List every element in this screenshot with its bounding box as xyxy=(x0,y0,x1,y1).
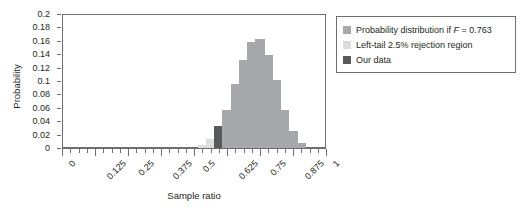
x-tick-minor xyxy=(153,149,154,153)
x-tick-major xyxy=(293,149,294,156)
x-tick-label: 0.5 xyxy=(202,159,217,174)
legend-item: Left-tail 2.5% rejection region xyxy=(343,37,510,52)
y-axis-title: Probability xyxy=(11,47,22,127)
x-tick-label: 0.375 xyxy=(172,159,194,181)
x-tick-major xyxy=(194,149,195,156)
x-tick-minor xyxy=(219,149,220,153)
x-axis-title: Sample ratio xyxy=(62,190,326,201)
x-tick-major xyxy=(260,149,261,156)
legend-item: Probability distribution if F = 0.763 xyxy=(343,22,510,37)
x-tick-minor xyxy=(103,149,104,153)
legend: Probability distribution if F = 0.763Lef… xyxy=(336,16,516,73)
x-tick-minor xyxy=(145,149,146,153)
y-tick-mark xyxy=(57,68,61,69)
y-tick-label: 0.2 xyxy=(37,10,50,19)
y-tick-label: 0.18 xyxy=(32,23,50,32)
x-tick-label: 0.75 xyxy=(269,159,288,178)
probability-histogram-figure: 00.020.040.060.080.10.120.140.160.180.2 … xyxy=(0,0,521,214)
x-tick-minor xyxy=(211,149,212,153)
x-tick-minor xyxy=(79,149,80,153)
y-tick-label: 0.12 xyxy=(32,63,50,72)
y-tick-mark xyxy=(57,41,61,42)
y-tick-label: 0.14 xyxy=(32,50,50,59)
x-tick-label: 0 xyxy=(67,159,77,169)
y-tick-label: 0.02 xyxy=(32,130,50,139)
x-tick-minor xyxy=(301,149,302,153)
y-tick-label: 0.16 xyxy=(32,36,50,45)
x-tick-minor xyxy=(244,149,245,153)
x-tick-minor xyxy=(136,149,137,153)
x-tick-minor xyxy=(178,149,179,153)
x-tick-minor xyxy=(202,149,203,153)
x-tick-minor xyxy=(186,149,187,153)
x-tick-minor xyxy=(268,149,269,153)
y-tick-mark xyxy=(57,27,61,28)
x-tick-minor xyxy=(318,149,319,153)
y-tick-mark xyxy=(57,81,61,82)
legend-swatch xyxy=(343,41,351,49)
x-tick-minor xyxy=(112,149,113,153)
x-tick-label: 0.25 xyxy=(137,159,156,178)
x-tick-minor xyxy=(310,149,311,153)
y-tick-mark xyxy=(57,108,61,109)
legend-swatch xyxy=(343,26,351,34)
legend-label: Left-tail 2.5% rejection region xyxy=(356,40,473,50)
x-tick-label: 1 xyxy=(331,159,341,169)
legend-label: Probability distribution if F = 0.763 xyxy=(356,25,492,35)
y-tick-label: 0.04 xyxy=(32,117,50,126)
legend-swatch xyxy=(343,56,351,64)
y-axis: 00.020.040.060.080.10.120.140.160.180.2 xyxy=(0,0,60,214)
y-tick-mark xyxy=(57,14,61,15)
x-tick-major xyxy=(161,149,162,156)
y-tick-label: 0 xyxy=(45,144,50,153)
x-tick-major xyxy=(128,149,129,156)
legend-label: Our data xyxy=(356,55,391,65)
x-tick-major xyxy=(95,149,96,156)
x-tick-label: 0.125 xyxy=(106,159,128,181)
x-tick-major xyxy=(227,149,228,156)
x-tick-minor xyxy=(277,149,278,153)
x-tick-label: 0.875 xyxy=(304,159,326,181)
x-tick-major xyxy=(326,149,327,156)
x-tick-minor xyxy=(252,149,253,153)
x-tick-minor xyxy=(70,149,71,153)
y-tick-mark xyxy=(57,121,61,122)
x-tick-label: 0.625 xyxy=(238,159,260,181)
legend-label-suffix: = 0.763 xyxy=(459,25,492,35)
x-tick-minor xyxy=(87,149,88,153)
y-tick-mark xyxy=(57,54,61,55)
bars-layer xyxy=(62,14,326,148)
x-tick-minor xyxy=(285,149,286,153)
x-tick-major xyxy=(62,149,63,156)
x-tick-minor xyxy=(120,149,121,153)
y-tick-mark xyxy=(57,94,61,95)
y-tick-mark xyxy=(57,148,61,149)
y-tick-label: 0.1 xyxy=(37,77,50,86)
y-tick-label: 0.08 xyxy=(32,90,50,99)
x-tick-minor xyxy=(169,149,170,153)
y-tick-mark xyxy=(57,135,61,136)
legend-item: Our data xyxy=(343,52,510,67)
x-tick-minor xyxy=(235,149,236,153)
legend-label-prefix: Probability distribution if xyxy=(356,25,454,35)
y-tick-label: 0.06 xyxy=(32,103,50,112)
